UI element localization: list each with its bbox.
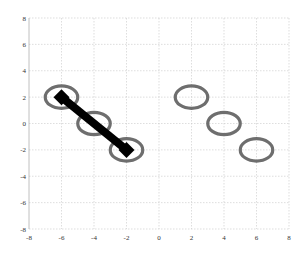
x-tick-label: -6 xyxy=(59,234,65,242)
y-tick-label: 8 xyxy=(23,15,27,23)
x-tick-label: 2 xyxy=(190,234,194,242)
grid-lines xyxy=(29,18,289,229)
x-tick-label: 0 xyxy=(157,234,161,242)
y-tick-labels: -8-6-4-202468 xyxy=(20,15,26,234)
x-tick-label: 4 xyxy=(222,234,226,242)
y-tick-label: -4 xyxy=(20,173,26,181)
y-tick-label: -2 xyxy=(20,146,26,154)
x-tick-label: -2 xyxy=(124,234,130,242)
y-tick-label: -8 xyxy=(20,226,26,234)
x-tick-label: 8 xyxy=(287,234,291,242)
y-tick-label: 2 xyxy=(23,94,27,102)
x-tick-label: 6 xyxy=(255,234,259,242)
y-tick-label: 0 xyxy=(23,120,27,128)
x-tick-labels: -8-6-4-202468 xyxy=(26,234,291,242)
y-tick-label: 4 xyxy=(23,67,27,75)
y-tick-label: 6 xyxy=(23,41,27,49)
scatter-chart: -8-6-4-202468 -8-6-4-202468 xyxy=(0,0,308,255)
y-tick-label: -6 xyxy=(20,199,26,207)
x-tick-label: -8 xyxy=(26,234,32,242)
x-tick-label: -4 xyxy=(91,234,97,242)
